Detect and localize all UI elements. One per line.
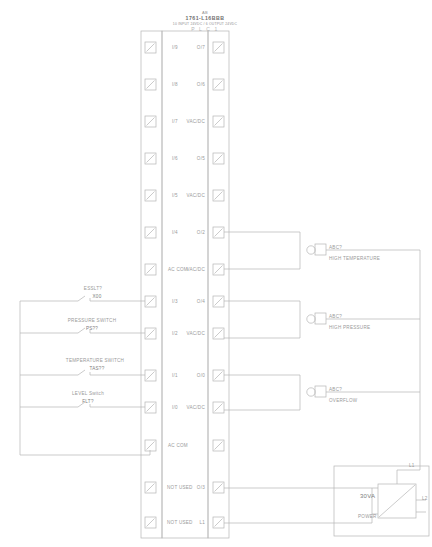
terminal-label-left-1: I/8 — [172, 82, 178, 87]
terminal-label-right-8: VAC/DC — [186, 331, 205, 336]
annunciator-tag-0: ABC? — [329, 245, 342, 250]
terminal-label-left-5: I/4 — [172, 230, 178, 235]
terminal-label-right-2: VAC/DC — [186, 119, 205, 124]
lamp-2-glyph — [307, 315, 315, 323]
terminal-label-left-10: I/0 — [172, 405, 178, 410]
lamp-3-box — [315, 386, 326, 397]
device-tag-1: PS?? — [86, 326, 98, 331]
plc-right-terminal-strip — [208, 31, 229, 538]
contact-3-blade — [78, 370, 85, 375]
annunciator-tag-1: ABC? — [329, 314, 342, 319]
transformer-diagonal — [379, 485, 415, 517]
right-terminal-screws — [213, 42, 224, 528]
terminal-label-right-6: VAC/DC — [186, 267, 205, 272]
device-name-2: TEMPERATURE SWITCH — [66, 358, 124, 363]
power-terminal-bottom-label: L2 — [422, 496, 428, 501]
terminal-label-left-7: I/3 — [172, 299, 178, 304]
plc-body — [162, 31, 208, 538]
terminal-label-right-12: O/3 — [197, 485, 205, 490]
device-name-3: LEVEL Switch — [72, 391, 104, 396]
terminal-label-left-8: I/2 — [172, 331, 178, 336]
terminal-label-left-12: NOT USED — [167, 485, 193, 490]
terminal-label-right-3: O/5 — [197, 156, 205, 161]
terminal-label-left-9: I/1 — [172, 373, 178, 378]
power-supply-panel — [334, 466, 429, 536]
terminal-label-left-0: I/9 — [172, 45, 178, 50]
annunciator-description-0: HIGH TEMPERATURE — [329, 256, 380, 261]
plc-left-terminal-strip — [141, 31, 162, 538]
title-io-description: 10 INPUT 24VDC / 6 OUTPUT 24VDC — [173, 22, 237, 26]
title-model: 1761-L16BBB — [186, 15, 225, 21]
lamp-2-box — [315, 313, 326, 324]
lamp-3-glyph — [307, 388, 315, 396]
schematic-canvas — [0, 0, 432, 547]
lamp-1-glyph — [307, 246, 315, 254]
terminal-label-right-13: L1 — [199, 520, 205, 525]
terminal-label-right-7: O/4 — [197, 299, 205, 304]
terminal-label-right-9: O/0 — [197, 373, 205, 378]
terminal-label-left-11: AC COM — [168, 443, 188, 448]
terminal-label-left-4: I/5 — [172, 193, 178, 198]
title-plc-designation: P L C 1 — [191, 26, 219, 32]
device-name-1: PRESSURE SWITCH — [68, 318, 116, 323]
terminal-label-left-13: NOT USED — [167, 520, 193, 525]
annunciator-description-2: OVERFLOW — [329, 398, 357, 403]
annunciator-description-1: HIGH PRESSURE — [329, 325, 370, 330]
terminal-label-right-5: O/2 — [197, 230, 205, 235]
device-tag-3: FLT? — [82, 399, 93, 404]
annunciator-tag-2: ABC? — [329, 387, 342, 392]
lamp-1-box — [315, 244, 326, 255]
terminal-label-right-10: VAC/DC — [186, 405, 205, 410]
contact-1-blade — [78, 296, 85, 301]
terminal-label-right-0: O/7 — [197, 45, 205, 50]
terminal-label-left-3: I/6 — [172, 156, 178, 161]
terminal-label-right-4: VAC/DC — [186, 193, 205, 198]
device-name-0: ESSLT? — [84, 286, 102, 291]
terminal-label-left-6: AC COM — [168, 267, 188, 272]
device-tag-0: X00 — [93, 294, 102, 299]
device-tag-2: TAS?? — [90, 366, 105, 371]
contact-2-blade — [78, 328, 85, 333]
plc-wiring-diagram: AB 1761-L16BBB 10 INPUT 24VDC / 6 OUTPUT… — [0, 0, 432, 547]
terminal-label-right-1: O/6 — [197, 82, 205, 87]
power-terminal-top-label: L1 — [409, 463, 415, 468]
power-supply-label: POWER — [358, 514, 377, 519]
terminal-label-left-2: I/7 — [172, 119, 178, 124]
power-supply-rating: 30VA — [360, 493, 375, 499]
